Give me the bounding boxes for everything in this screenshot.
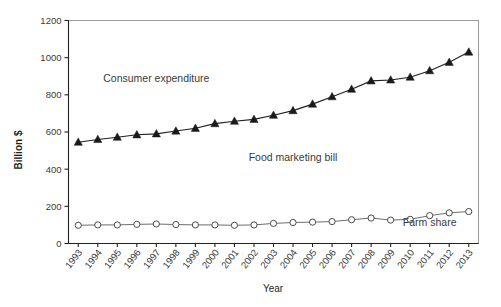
- y-tick-label: 0: [56, 238, 61, 249]
- farm-share-point: [153, 221, 159, 227]
- consumer-expenditure-point: [465, 48, 473, 55]
- y-tick-label: 600: [46, 126, 62, 137]
- farm-share-point: [134, 221, 140, 227]
- farm-share-point: [251, 222, 257, 228]
- y-tick-label: 1200: [40, 15, 61, 26]
- farm-share-point: [231, 222, 237, 228]
- farm-share-point: [309, 219, 315, 225]
- x-tick-label: 1993: [63, 247, 85, 270]
- farm-share-point: [388, 217, 394, 223]
- series-annotation: Farm share: [403, 216, 457, 228]
- farm-share-point: [192, 222, 198, 228]
- x-tick-label: 2009: [375, 247, 397, 270]
- farm-share-point: [466, 208, 472, 214]
- x-tick-label: 2004: [277, 247, 299, 270]
- x-tick-label: 2006: [316, 247, 338, 270]
- farm-share-point: [95, 222, 101, 228]
- farm-share-point: [329, 218, 335, 224]
- line-chart: 020040060080010001200 199319941995199619…: [0, 0, 501, 307]
- series-consumer-expenditure: [74, 48, 473, 146]
- x-tick-label: 2013: [453, 247, 475, 270]
- x-tick-label: 2003: [258, 247, 280, 270]
- x-axis-title: Year: [263, 283, 284, 294]
- x-tick-label: 1996: [121, 247, 143, 270]
- plot-area-frame: [69, 21, 479, 244]
- farm-share-point: [270, 220, 276, 226]
- series-annotation: Food marketing bill: [249, 151, 338, 163]
- y-tick-label: 800: [46, 89, 62, 100]
- y-axis-title: Billion $: [13, 130, 24, 169]
- farm-share-point: [75, 222, 81, 228]
- series-annotation: Consumer expenditure: [103, 72, 209, 84]
- farm-share-point: [446, 210, 452, 216]
- x-tick-label: 1999: [180, 247, 202, 270]
- x-tick-label: 2001: [219, 247, 241, 270]
- y-tick-label: 1000: [40, 52, 61, 63]
- x-tick-label: 2011: [415, 247, 436, 270]
- x-tick-label: 1994: [82, 247, 104, 270]
- farm-share-point: [368, 215, 374, 221]
- y-tick-label: 200: [46, 201, 62, 212]
- farm-share-point: [114, 222, 120, 228]
- x-tick-label: 2005: [297, 247, 319, 270]
- x-tick-label: 2008: [356, 247, 378, 270]
- y-tick-label: 400: [46, 164, 62, 175]
- chart-annotations: Consumer expenditureFood marketing billF…: [103, 72, 456, 229]
- x-tick-label: 1995: [102, 247, 124, 270]
- x-tick-label: 2007: [336, 247, 358, 270]
- x-tick-label: 2000: [199, 247, 221, 270]
- farm-share-point: [173, 221, 179, 227]
- x-axis-ticks: 1993199419951996199719981999200020012002…: [63, 244, 475, 271]
- y-axis-ticks: 020040060080010001200: [40, 15, 68, 249]
- x-tick-label: 2012: [434, 247, 456, 270]
- consumer-expenditure-point: [426, 66, 434, 73]
- consumer-expenditure-point: [445, 58, 453, 65]
- farm-share-point: [349, 217, 355, 223]
- chart-figure: 020040060080010001200 199319941995199619…: [0, 0, 501, 307]
- consumer-expenditure-point: [348, 85, 356, 92]
- farm-share-point: [290, 219, 296, 225]
- consumer-expenditure-line: [78, 52, 468, 142]
- x-tick-label: 2010: [395, 247, 417, 270]
- x-tick-label: 1998: [160, 247, 182, 270]
- x-tick-label: 2002: [238, 247, 260, 270]
- farm-share-point: [212, 222, 218, 228]
- x-tick-label: 1997: [141, 247, 163, 270]
